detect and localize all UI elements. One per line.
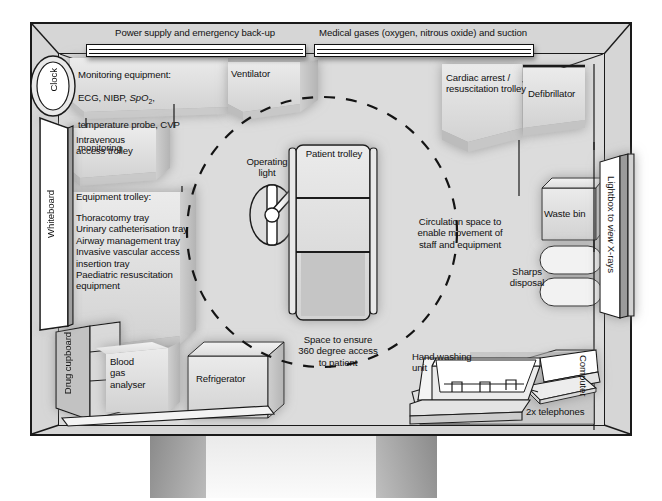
defibrillator-label: Defibrillator bbox=[528, 88, 598, 99]
power-supply-label: Power supply and emergency back-up bbox=[82, 27, 308, 38]
lightbox-text-c: X-rays bbox=[606, 243, 617, 273]
circulation-space-label: Circulation space to enable movement of … bbox=[404, 216, 516, 250]
power-supply-rail bbox=[86, 44, 306, 57]
ventilator-label: Ventilator bbox=[231, 68, 311, 79]
resuscitation-room-diagram: Power supply and emergency back-up Medic… bbox=[0, 0, 662, 501]
lightbox-label: Lightbox to view X-rays bbox=[606, 176, 629, 273]
access-360-label: Space to ensure 360 degree access to pat… bbox=[284, 334, 392, 368]
monitoring-line-1: Monitoring equipment: bbox=[78, 69, 171, 80]
sharps-disposal-label: Sharps disposal bbox=[500, 266, 554, 289]
lightbox-text-view: view bbox=[606, 224, 617, 243]
refrigerator-label: Refrigerator bbox=[196, 373, 276, 384]
operating-light-label: Operating light bbox=[236, 156, 298, 179]
whiteboard-label: Whiteboard bbox=[45, 190, 56, 238]
medical-gases-label: Medical gases (oxygen, nitrous oxide) an… bbox=[292, 27, 554, 38]
patient-trolley-block bbox=[289, 145, 377, 320]
waste-bin-label: Waste bin bbox=[544, 208, 606, 219]
medical-gases-rail bbox=[314, 44, 534, 57]
monitoring-line-2-prefix: ECG, NIBP, bbox=[78, 92, 130, 103]
blood-gas-analyser-label: Blood gas analyser bbox=[110, 356, 170, 390]
clock-label: Clock bbox=[48, 68, 59, 92]
lightbox-text-a: Lightbox to bbox=[606, 176, 617, 224]
patient-trolley-label: Patient trolley bbox=[298, 148, 370, 159]
intravenous-access-trolley-label: Intravenous access trolley bbox=[76, 134, 168, 157]
hand-washing-unit-label: Hand washing unit bbox=[412, 351, 498, 374]
monitoring-line-3: temperature probe, CVP bbox=[78, 119, 180, 130]
drug-cupboard-label: Drug cupboard bbox=[62, 332, 73, 394]
spo2-symbol: SpO bbox=[130, 92, 149, 103]
computer-label: Computer bbox=[578, 355, 589, 396]
equipment-trolley-items: Thoracotomy tray Urinary catheterisation… bbox=[76, 212, 216, 292]
telephones-label: 2x telephones bbox=[526, 406, 616, 417]
monitoring-line-2-suffix: , bbox=[152, 92, 155, 103]
equipment-trolley-heading: Equipment trolley: bbox=[76, 191, 206, 202]
